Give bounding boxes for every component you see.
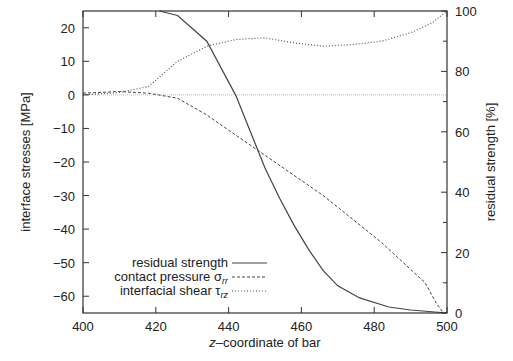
y-tick-label: 0 xyxy=(68,88,75,103)
x-tick-label: 460 xyxy=(291,319,313,334)
y2-tick-label: 20 xyxy=(455,246,469,261)
y-tick-label: −60 xyxy=(53,289,75,304)
legend: residual strength contact pressure σrr i… xyxy=(114,255,267,300)
y-tick-label: −50 xyxy=(53,256,75,271)
y-tick-label: −40 xyxy=(53,222,75,237)
series-line-dotted xyxy=(83,11,447,95)
y-tick-label: 10 xyxy=(61,54,75,69)
chart: 40042044046048050020100−10−20−30−40−50−6… xyxy=(0,0,513,361)
y-axis-title: interface stresses [MPa] xyxy=(18,92,33,231)
x-axis-title: z–coordinate of bar xyxy=(208,335,321,350)
x-tick-label: 440 xyxy=(218,319,240,334)
y-tick-label: 20 xyxy=(61,21,75,36)
x-tick-label: 420 xyxy=(145,319,167,334)
y2-tick-label: 60 xyxy=(455,125,469,140)
y2-tick-label: 0 xyxy=(455,306,462,321)
legend-label-residual: residual strength xyxy=(132,255,228,270)
y-tick-label: −20 xyxy=(53,155,75,170)
y-tick-label: −10 xyxy=(53,121,75,136)
y2-axis-title: residual strength [%] xyxy=(483,103,498,222)
x-tick-label: 400 xyxy=(72,319,94,334)
x-tick-label: 480 xyxy=(363,319,385,334)
y2-tick-label: 80 xyxy=(455,64,469,79)
y-tick-label: −30 xyxy=(53,189,75,204)
y2-tick-label: 40 xyxy=(455,185,469,200)
legend-label-shear: interfacial shear τrz xyxy=(120,283,229,300)
y2-tick-label: 100 xyxy=(455,4,477,19)
x-tick-label: 500 xyxy=(436,319,458,334)
